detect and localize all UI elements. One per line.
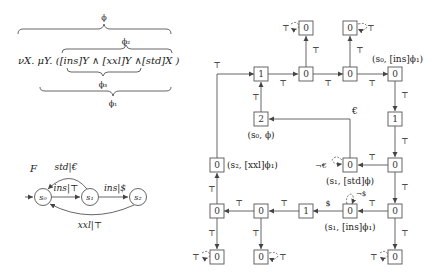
svg-text:0: 0 bbox=[392, 69, 398, 79]
svg-text:⊤: ⊤ bbox=[401, 229, 409, 238]
svg-text:0: 0 bbox=[392, 252, 398, 262]
node-mid2[interactable]: 2 bbox=[254, 112, 268, 126]
annotation-n4: (s₀, [ins]ϕ₁) bbox=[372, 54, 423, 64]
svg-text:$: $ bbox=[325, 199, 330, 208]
node-ins1[interactable]: 0 bbox=[343, 204, 357, 218]
brace-phi bbox=[18, 24, 171, 34]
automaton-F: F s₀ s₁ s₂ ins|⊤ ins|$ std|€ xxl|⊤ bbox=[25, 162, 147, 231]
brace-label-phi1: ϕ₁ bbox=[109, 99, 118, 108]
svg-text:€: € bbox=[351, 106, 358, 116]
svg-text:0: 0 bbox=[214, 206, 220, 216]
svg-text:0: 0 bbox=[392, 206, 398, 216]
svg-text:⊤: ⊤ bbox=[279, 253, 287, 262]
svg-text:⊤: ⊤ bbox=[252, 229, 260, 238]
label-std-euro: std|€ bbox=[55, 162, 78, 173]
node-top1[interactable]: 0 bbox=[299, 21, 313, 35]
node-bb3[interactable]: 0 bbox=[388, 250, 402, 264]
state-s2[interactable]: s₂ bbox=[130, 189, 147, 206]
svg-text:⊤: ⊤ bbox=[213, 61, 221, 70]
diagram-canvas: ϕ ϕ₂ νX. μY. ([ins]Y ∧ [xxl]Y ∧[std]X ) … bbox=[0, 0, 435, 275]
brace-phi2 bbox=[62, 45, 172, 53]
label-ins-dollar: ins|$ bbox=[104, 183, 126, 194]
svg-text:0: 0 bbox=[214, 252, 220, 262]
node-n3[interactable]: 0 bbox=[343, 67, 357, 81]
formula: ϕ ϕ₂ νX. μY. ([ins]Y ∧ [xxl]Y ∧[std]X ) … bbox=[18, 13, 180, 108]
svg-text:⊤: ⊤ bbox=[324, 79, 332, 88]
node-r2[interactable]: 0 bbox=[388, 158, 402, 172]
brace-label-phi2: ϕ₂ bbox=[122, 37, 131, 46]
node-n2[interactable]: 0 bbox=[299, 67, 313, 81]
svg-text:⊤: ⊤ bbox=[401, 183, 409, 192]
svg-text:¬$: ¬$ bbox=[356, 190, 366, 198]
brace-label-phi: ϕ bbox=[101, 13, 107, 22]
node-n4[interactable]: 0 bbox=[388, 67, 402, 81]
svg-text:⊤: ⊤ bbox=[401, 91, 409, 100]
svg-text:0: 0 bbox=[347, 69, 353, 79]
svg-text:⊤: ⊤ bbox=[280, 199, 288, 208]
svg-text:⊤: ⊤ bbox=[356, 46, 364, 55]
annotation-mid2: (s₀, ϕ) bbox=[247, 130, 274, 140]
brace-label-phi3: ϕ₃ bbox=[99, 80, 108, 89]
svg-text:⊤: ⊤ bbox=[208, 185, 216, 194]
svg-text:0: 0 bbox=[258, 206, 264, 216]
svg-text:⊤: ⊤ bbox=[368, 199, 376, 208]
svg-text:⊤: ⊤ bbox=[401, 137, 409, 146]
node-n1[interactable]: 1 bbox=[254, 67, 268, 81]
node-b3[interactable]: 1 bbox=[299, 204, 313, 218]
svg-text:⊤: ⊤ bbox=[279, 79, 287, 88]
node-r1[interactable]: 1 bbox=[388, 112, 402, 126]
node-bb1[interactable]: 0 bbox=[210, 250, 224, 264]
node-bb2[interactable]: 0 bbox=[254, 250, 268, 264]
svg-text:0: 0 bbox=[347, 160, 353, 170]
svg-text:s₂: s₂ bbox=[134, 193, 141, 202]
svg-text:⊤: ⊤ bbox=[370, 253, 378, 262]
annotation-left: (s₂, [xxl]ϕ₁) bbox=[227, 160, 278, 170]
svg-text:⊤: ⊤ bbox=[312, 46, 320, 55]
brace-phi3 bbox=[67, 68, 141, 76]
state-s0[interactable]: s₀ bbox=[35, 189, 52, 206]
svg-text:0: 0 bbox=[258, 252, 264, 262]
node-std[interactable]: 0 bbox=[343, 158, 357, 172]
svg-text:⊤: ⊤ bbox=[252, 93, 260, 102]
label-ins-top: ins|⊤ bbox=[54, 183, 79, 194]
svg-text:s₀: s₀ bbox=[39, 193, 47, 202]
svg-text:⊤: ⊤ bbox=[282, 24, 290, 33]
svg-text:1: 1 bbox=[303, 206, 309, 216]
svg-text:⊤: ⊤ bbox=[367, 24, 375, 33]
svg-text:s₁: s₁ bbox=[86, 193, 93, 202]
svg-text:¬€: ¬€ bbox=[315, 161, 327, 170]
svg-text:2: 2 bbox=[258, 114, 264, 124]
annotation-std: (s₁, [std]ϕ) bbox=[326, 176, 374, 186]
svg-text:0: 0 bbox=[347, 206, 353, 216]
svg-text:⊤: ⊤ bbox=[368, 153, 376, 162]
svg-text:⊤: ⊤ bbox=[192, 253, 200, 262]
label-xxl-top: xxl|⊤ bbox=[78, 220, 103, 231]
svg-text:⊤: ⊤ bbox=[235, 199, 243, 208]
state-s1[interactable]: s₁ bbox=[82, 189, 99, 206]
svg-text:1: 1 bbox=[258, 69, 264, 79]
node-b2[interactable]: 0 bbox=[254, 204, 268, 218]
node-b1[interactable]: 0 bbox=[210, 204, 224, 218]
svg-text:0: 0 bbox=[347, 23, 353, 33]
node-top2[interactable]: 0 bbox=[343, 21, 357, 35]
node-r3[interactable]: 0 bbox=[388, 204, 402, 218]
svg-text:⊤: ⊤ bbox=[208, 229, 216, 238]
svg-text:0: 0 bbox=[303, 69, 309, 79]
automaton-name: F bbox=[29, 163, 38, 174]
svg-text:1: 1 bbox=[392, 114, 398, 124]
svg-text:⊤: ⊤ bbox=[368, 79, 376, 88]
svg-text:0: 0 bbox=[214, 160, 220, 170]
svg-text:0: 0 bbox=[303, 23, 309, 33]
annotation-ins1: (s₁, [ins]ϕ₁) bbox=[324, 222, 375, 232]
svg-text:0: 0 bbox=[392, 160, 398, 170]
node-left[interactable]: 0 bbox=[210, 158, 224, 172]
formula-text: νX. μY. ([ins]Y ∧ [xxl]Y ∧[std]X ) bbox=[18, 55, 180, 66]
